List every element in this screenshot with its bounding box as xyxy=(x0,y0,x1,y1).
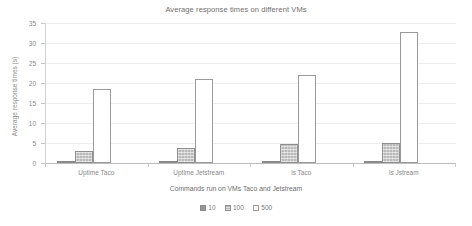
x-axis-tick-label: ls Taco xyxy=(250,169,353,176)
bar-500-1[interactable] xyxy=(93,89,111,163)
legend-swatch-icon xyxy=(200,205,206,211)
bar-500-2[interactable] xyxy=(195,79,213,163)
y-axis-tick-mark xyxy=(41,23,45,24)
y-axis-tick-label: 0 xyxy=(32,160,36,167)
legend-label: 10 xyxy=(208,204,215,211)
y-axis-tick-label: 35 xyxy=(29,20,36,27)
y-axis-tick-label: 25 xyxy=(29,60,36,67)
y-axis-tick-mark xyxy=(41,123,45,124)
legend-label: 100 xyxy=(233,204,244,211)
chart-container: Average response times on different VMs … xyxy=(0,0,472,226)
y-axis-tick-label: 15 xyxy=(29,100,36,107)
bar-group xyxy=(45,23,148,163)
bar-group xyxy=(250,23,353,163)
y-axis-tick-labels: 05101520253035 xyxy=(0,23,42,163)
x-axis-tick-label: Uptime Taco xyxy=(45,169,148,176)
x-axis-tick-label: ls Jstream xyxy=(353,169,456,176)
y-axis-tick-mark xyxy=(41,103,45,104)
legend-swatch-icon xyxy=(225,205,231,211)
bar-group xyxy=(148,23,251,163)
x-axis-title: Commands run on VMs Taco and Jetstream xyxy=(0,185,472,192)
x-axis-tick-mark xyxy=(148,163,149,167)
legend-item-500[interactable]: 500 xyxy=(253,204,272,211)
legend-item-10[interactable]: 10 xyxy=(200,204,216,211)
y-axis-tick-label: 20 xyxy=(29,80,36,87)
bar-10-3[interactable] xyxy=(262,161,280,163)
y-axis-tick-mark xyxy=(41,143,45,144)
legend-item-100[interactable]: 100 xyxy=(225,204,244,211)
y-axis-tick-label: 30 xyxy=(29,40,36,47)
x-axis-tick-mark xyxy=(455,163,456,167)
bar-groups xyxy=(45,23,455,163)
bar-10-2[interactable] xyxy=(159,161,177,163)
x-axis-tick-label: Uptime Jetstream xyxy=(148,169,251,176)
legend-swatch-icon xyxy=(253,205,259,211)
x-axis-tick-labels: Uptime TacoUptime Jetstreamls Tacols Jst… xyxy=(45,169,455,176)
legend-label: 500 xyxy=(261,204,272,211)
x-axis-tick-mark xyxy=(45,163,46,167)
bar-10-4[interactable] xyxy=(364,161,382,163)
y-axis-tick-mark xyxy=(41,63,45,64)
bar-500-4[interactable] xyxy=(400,32,418,163)
bar-10-1[interactable] xyxy=(57,161,75,163)
x-axis-tick-mark xyxy=(353,163,354,167)
bar-group xyxy=(353,23,456,163)
chart-title: Average response times on different VMs xyxy=(0,5,472,14)
bar-100-4[interactable] xyxy=(382,143,400,163)
chart-legend: 10100500 xyxy=(0,204,472,211)
y-axis-tick-mark xyxy=(41,83,45,84)
y-axis-tick-mark xyxy=(41,43,45,44)
bar-100-1[interactable] xyxy=(75,151,93,163)
bar-100-2[interactable] xyxy=(177,148,195,163)
x-axis-tick-mark xyxy=(250,163,251,167)
bar-100-3[interactable] xyxy=(280,144,298,163)
y-axis-tick-label: 5 xyxy=(32,140,36,147)
y-axis-tick-label: 10 xyxy=(29,120,36,127)
bar-500-3[interactable] xyxy=(298,75,316,163)
